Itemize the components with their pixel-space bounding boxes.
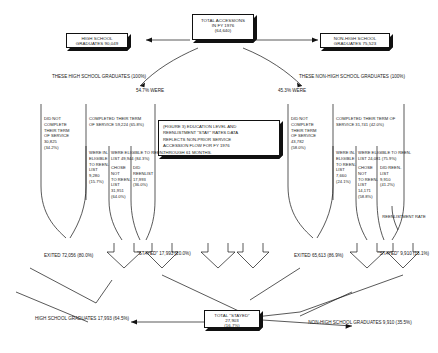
total-stayed-box: TOTAL "STAYED" 27,903 (16.7%) xyxy=(204,310,260,328)
left-subtitle-line-2: (100%) xyxy=(131,74,146,79)
right-subtitle-line-2: (100%) xyxy=(390,74,405,79)
r-ex-0: EXITED xyxy=(294,253,311,258)
split-left-word: WERE xyxy=(150,88,164,93)
split-left-label: 54.7% WERE xyxy=(133,88,167,94)
r-cn-0: CHOSE NOT xyxy=(358,165,378,177)
left-eligible: WERE ELIGIBLE TO REEN- LIST 49,944 (84.3… xyxy=(111,150,171,162)
left-did-not-complete: DID NOT COMPLETE THEIR TERM OF SERVICE 3… xyxy=(44,116,84,151)
right-chose-not-reenlist: CHOSE NOT TO REEN- LIST 14,171 (58.8%) xyxy=(358,165,378,200)
rr-0: REENLISTMENT xyxy=(382,214,414,219)
left-exited-label: EXITED 72,056 (80.0%) xyxy=(44,253,92,259)
high-school-graduates-box: HIGH SCHOOL GRADUATES 90,049 xyxy=(66,33,128,48)
left-stayed-label: "STAYED" 17,993 (20.0%) xyxy=(137,251,171,257)
r-st-1: 9,910 xyxy=(400,251,412,256)
l-cn-0: CHOSE NOT xyxy=(111,165,131,177)
left-not-eligible: WERE IN- ELIGIBLE TO REEN- LIST 9,280 (1… xyxy=(89,150,109,185)
right-subtitle-line-1: THESE NON-HIGH SCHOOL GRADUATES xyxy=(299,74,389,79)
l-ne-0: WERE IN- xyxy=(89,150,109,156)
caption-line-4: THROUGH 61 MONTHS. xyxy=(163,150,275,156)
right-stayed-label: "STAYED" 9,910 (13.1%) xyxy=(378,251,412,257)
figure-caption-box: (FIGURE 3) EDUCATION LEVEL AND REENLISTM… xyxy=(158,120,280,156)
split-left-pct: 54.7% xyxy=(136,88,149,93)
r-dr-0: DID REEN- xyxy=(380,165,404,171)
l-el-0: WERE ELIGIBLE TO REEN- xyxy=(111,150,171,156)
footer-non-high-school-graduates: NON-HIGH SCHOOL GRADUATES 9,910 (35.5%) xyxy=(300,320,420,326)
r-el-0: WERE ELIGIBLE TO REEN- xyxy=(358,150,418,156)
total-stayed-line-2: (16.7%) xyxy=(205,323,259,328)
l-ne-1: ELIGIBLE xyxy=(89,156,109,162)
r-st-0: "STAYED" xyxy=(378,251,399,256)
footer-high-school-graduates: HIGH SCHOOL GRADUATES 17,993 (64.5%) xyxy=(28,316,136,322)
l-dnc-5: (34.2%) xyxy=(44,145,84,151)
right-not-eligible: WERE IN- ELIGIBLE TO REEN- LIST 7,660 (2… xyxy=(336,150,356,185)
right-completed-term: COMPLETED THEIR TERM OF SERVICE 31,741 (… xyxy=(336,116,406,128)
f-nhs-1: 9,910 (35.5%) xyxy=(383,320,412,325)
total-accessions-box: TOTAL ACCESSIONS IN FY 1976 (64,640) xyxy=(192,14,254,40)
split-right-word: WERE xyxy=(292,88,306,93)
l-el-1: LIST 49,944 (84.3%) xyxy=(111,156,171,162)
hs-grad-line-1: GRADUATES 90,049 xyxy=(67,41,127,46)
r-comp-1: SERVICE 31,741 (42.0%) xyxy=(336,122,406,128)
right-exited-label: EXITED 65,613 (86.9%) xyxy=(294,253,342,259)
l-ex-1: 72,056 xyxy=(62,253,76,258)
r-ex-1: 65,613 xyxy=(312,253,326,258)
left-chose-not-reenlist: CHOSE NOT TO REEN- LIST 31,951 (64.0%) xyxy=(111,165,131,200)
total-accessions-line-2: (64,640) xyxy=(193,28,253,33)
f-nhs-0: NON-HIGH SCHOOL GRADUATES xyxy=(308,320,381,325)
r-ex-2: (86.9%) xyxy=(327,253,343,258)
left-subtitle: THESE HIGH SCHOOL GRADUATES (100%) xyxy=(34,74,164,80)
l-dr-1: REENLIST xyxy=(133,171,155,177)
r-st-2: (13.1%) xyxy=(413,251,429,256)
reenlistment-rate-label: REENLISTMENT RATE xyxy=(381,214,427,219)
l-dr-3: (36.0%) xyxy=(133,182,155,188)
r-dnc-5: (58.0%) xyxy=(291,145,331,151)
left-subtitle-line-1: THESE HIGH SCHOOL GRADUATES xyxy=(52,74,130,79)
l-ne-5: (15.7%) xyxy=(89,179,109,185)
right-eligible: WERE ELIGIBLE TO REEN- LIST 24,081 (75.9… xyxy=(358,150,418,162)
split-right-label: 45.3% WERE xyxy=(275,88,309,94)
l-comp-1: OF SERVICE 59,224 (65.8%) xyxy=(89,122,157,128)
non-high-school-graduates-box: NON-HIGH SCHOOL GRADUATES 75,523 xyxy=(320,33,390,48)
l-st-1: 17,993 xyxy=(159,251,173,256)
left-did-reenlist: DID REENLIST 17,993 (36.0%) xyxy=(133,165,155,188)
r-dr-3: (41.2%) xyxy=(380,182,404,188)
f-hs-1: 17,993 (64.5%) xyxy=(98,316,129,321)
l-st-2: (20.0%) xyxy=(175,251,191,256)
rr-1: RATE xyxy=(415,214,426,219)
r-ne-1: ELIGIBLE xyxy=(336,156,356,162)
right-subtitle: THESE NON-HIGH SCHOOL GRADUATES (100%) xyxy=(284,74,420,80)
left-completed-term: COMPLETED THEIR TERM OF SERVICE 59,224 (… xyxy=(89,116,157,128)
diagram-canvas: TOTAL ACCESSIONS IN FY 1976 (64,640) HIG… xyxy=(0,0,438,353)
l-st-0: "STAYED" xyxy=(137,251,158,256)
l-ex-0: EXITED xyxy=(44,253,61,258)
split-right-pct: 45.3% xyxy=(278,88,291,93)
r-cn-4: (58.8%) xyxy=(358,194,378,200)
right-did-reenlist: DID REEN- LIST 9,910 (41.2%) xyxy=(380,165,404,188)
nhs-grad-line-1: GRADUATES 75,523 xyxy=(321,41,389,46)
f-hs-0: HIGH SCHOOL GRADUATES xyxy=(35,316,97,321)
l-ex-2: (80.0%) xyxy=(77,253,93,258)
right-did-not-complete: DID NOT COMPLETE THEIR TERM OF SERVICE 4… xyxy=(291,116,331,151)
r-el-1: LIST 24,081 (75.9%) xyxy=(358,156,418,162)
l-cn-4: (64.0%) xyxy=(111,194,131,200)
r-ne-5: (24.1%) xyxy=(336,179,356,185)
r-ne-0: WERE IN- xyxy=(336,150,356,156)
